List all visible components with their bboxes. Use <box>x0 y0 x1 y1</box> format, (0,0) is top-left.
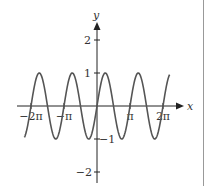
axes <box>17 22 184 183</box>
y-tick-label: 2 <box>84 34 91 47</box>
x-tick-label: −π <box>56 110 72 123</box>
y-tick-label: −1 <box>99 133 115 146</box>
x-axis-label: x <box>187 100 194 113</box>
y-tick-label: 1 <box>84 67 91 80</box>
right-border <box>203 0 204 186</box>
y-axis-label: y <box>92 9 100 22</box>
x-tick-label: 2π <box>156 110 170 123</box>
y-axis-arrow-icon <box>94 22 101 30</box>
x-tick-label: −2π <box>19 110 42 123</box>
x-axis-arrow-icon <box>176 103 184 110</box>
y-tick-label: −2 <box>76 166 92 179</box>
sine-graph: −2π−ππ2π21−1−2 x y <box>0 0 207 186</box>
